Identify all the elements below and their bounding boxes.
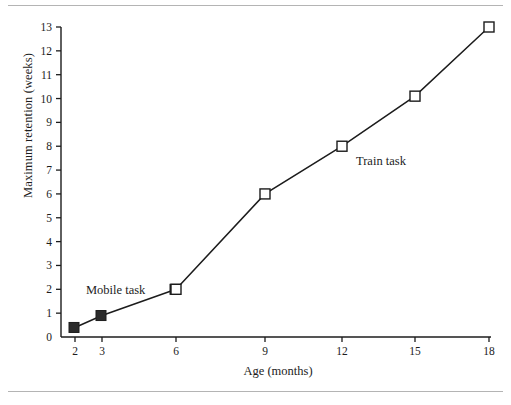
x-axis-tick-label: 12 xyxy=(336,345,348,357)
y-axis-tick-label: 0 xyxy=(46,331,52,343)
y-axis-tick-label: 12 xyxy=(41,45,53,57)
data-point-marker-open xyxy=(260,189,270,199)
y-axis-tick-label: 3 xyxy=(46,259,52,271)
y-axis-tick-label: 2 xyxy=(46,283,52,295)
chart-plot-area: 012345678910111213 2369121518 Mobile tas… xyxy=(0,0,511,405)
x-axis-tick-label: 2 xyxy=(72,345,78,357)
data-point-marker-filled xyxy=(69,322,79,332)
y-axis-tick-label: 10 xyxy=(41,93,53,105)
y-axis-tick-label: 11 xyxy=(41,69,52,81)
data-point-marker-open xyxy=(410,91,420,101)
data-point-marker-open xyxy=(484,22,494,32)
series-label-mobile-task: Mobile task xyxy=(86,283,146,297)
y-axis-tick-label: 13 xyxy=(41,21,53,33)
y-axis-tick-label: 1 xyxy=(46,307,52,319)
figure-container: Maximum retention (weeks) Age (months) 0… xyxy=(0,0,511,405)
x-axis-tick-label: 6 xyxy=(173,345,179,357)
x-axis-tick-label: 15 xyxy=(409,345,421,357)
x-axis-tick-label: 18 xyxy=(483,345,495,357)
series-line-train-task xyxy=(176,27,489,289)
data-point-marker-filled xyxy=(96,311,106,321)
y-axis: 012345678910111213 xyxy=(41,21,62,343)
y-axis-tick-label: 5 xyxy=(46,212,52,224)
series-annotations-group: Mobile taskTrain task xyxy=(86,154,407,297)
y-axis-tick-label: 9 xyxy=(46,116,52,128)
y-axis-tick-label: 4 xyxy=(46,236,52,248)
x-axis: 2369121518 xyxy=(61,337,495,357)
data-point-marker-open xyxy=(171,284,181,294)
y-axis-tick-label: 7 xyxy=(46,164,52,176)
y-axis-tick-label: 6 xyxy=(46,188,52,200)
x-axis-tick-label: 9 xyxy=(262,345,268,357)
series-label-train-task: Train task xyxy=(356,154,407,168)
y-axis-tick-label: 8 xyxy=(46,140,52,152)
x-axis-tick-label: 3 xyxy=(99,345,105,357)
data-point-marker-open xyxy=(337,141,347,151)
